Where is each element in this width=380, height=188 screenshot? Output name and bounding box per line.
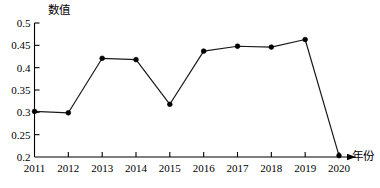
- y-tick-label: 0.35: [11, 84, 31, 96]
- data-point-marker: [100, 56, 105, 61]
- y-axis-title: 数值: [48, 3, 71, 17]
- x-tick-label: 2018: [260, 162, 283, 174]
- x-axis-title: 年份: [352, 149, 375, 163]
- data-point-marker: [201, 49, 206, 54]
- y-tick-label: 0.3: [17, 106, 31, 118]
- data-point-marker: [32, 109, 37, 114]
- data-point-marker: [303, 37, 308, 42]
- data-point-marker: [235, 44, 240, 49]
- chart-background: [0, 0, 380, 188]
- data-point-marker: [66, 110, 71, 115]
- x-tick-label: 2011: [24, 162, 46, 174]
- x-tick-label: 2013: [91, 162, 114, 174]
- x-tick-label: 2012: [57, 162, 79, 174]
- x-tick-label: 2015: [159, 162, 182, 174]
- data-point-marker: [337, 153, 342, 158]
- x-tick-label: 2020: [328, 162, 351, 174]
- line-chart: 0.50.450.40.350.30.250.2 201120122013201…: [0, 0, 380, 188]
- x-tick-label: 2017: [227, 162, 250, 174]
- data-point-marker: [269, 45, 274, 50]
- data-point-marker: [134, 57, 139, 62]
- y-tick-label: 0.4: [17, 62, 31, 74]
- y-tick-label: 0.25: [11, 129, 31, 141]
- y-tick-label: 0.45: [11, 39, 31, 51]
- x-tick-label: 2014: [125, 162, 148, 174]
- x-tick-label: 2019: [294, 162, 317, 174]
- x-tick-label: 2016: [193, 162, 216, 174]
- data-point-marker: [167, 102, 172, 107]
- chart-canvas: 0.50.450.40.350.30.250.2 201120122013201…: [0, 0, 380, 188]
- y-tick-label: 0.5: [17, 17, 31, 29]
